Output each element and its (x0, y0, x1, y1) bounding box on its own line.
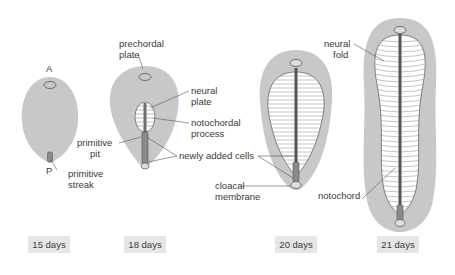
notochord-20 (295, 68, 298, 178)
label-primitive-streak: primitive (68, 168, 103, 179)
label-primitive-streak: streak (68, 179, 94, 190)
label-cloacal-membrane: cloacal (215, 180, 245, 191)
cloacal-membrane-21 (395, 220, 405, 227)
label-newly-added-cells: newly added cells (179, 150, 254, 161)
primitive-streak-18 (142, 132, 148, 164)
stage-15-days: A P primitive streak (22, 63, 104, 190)
label-notochordal-process: notochordal (191, 117, 241, 128)
day-label-21: 21 days (377, 236, 419, 253)
label-prechordal-plate: plate (119, 49, 140, 60)
label-primitive-pit: primitive (77, 137, 112, 148)
prechordal-plate-15 (44, 82, 56, 89)
label-cloacal-membrane: membrane (215, 191, 260, 202)
notochordal-process (144, 103, 147, 133)
label-neural-fold: fold (333, 49, 348, 60)
primitive-streak (48, 152, 53, 162)
notochord (399, 34, 402, 212)
label-anterior: A (46, 63, 53, 74)
label-notochord: notochord (318, 190, 360, 201)
cloacal-membrane-18 (141, 163, 149, 169)
embryo-development-diagram: A P primitive streak prechordal plate ne… (0, 0, 455, 275)
embryonic-disc-15 (22, 77, 79, 163)
day-label-18: 18 days (124, 236, 166, 253)
prechordal-plate-20 (290, 60, 302, 67)
label-notochordal-process: process (191, 128, 225, 139)
label-neural-plate: plate (191, 96, 212, 107)
primitive-streak-20 (293, 162, 299, 182)
label-neural-plate: neural (191, 85, 217, 96)
label-neural-fold: neural (324, 38, 350, 49)
day-label-15: 15 days (28, 236, 70, 253)
cloacal-membrane (291, 182, 301, 189)
stage-18-days: prechordal plate neural plate notochorda… (77, 38, 254, 169)
label-primitive-pit: pit (90, 148, 100, 159)
label-prechordal-plate: prechordal (119, 38, 164, 49)
prechordal-plate-21 (394, 27, 406, 34)
label-posterior: P (46, 165, 52, 176)
day-label-20: 20 days (275, 236, 317, 253)
prechordal-plate (139, 74, 151, 81)
stage-21-days: neural fold notochord (318, 18, 436, 232)
